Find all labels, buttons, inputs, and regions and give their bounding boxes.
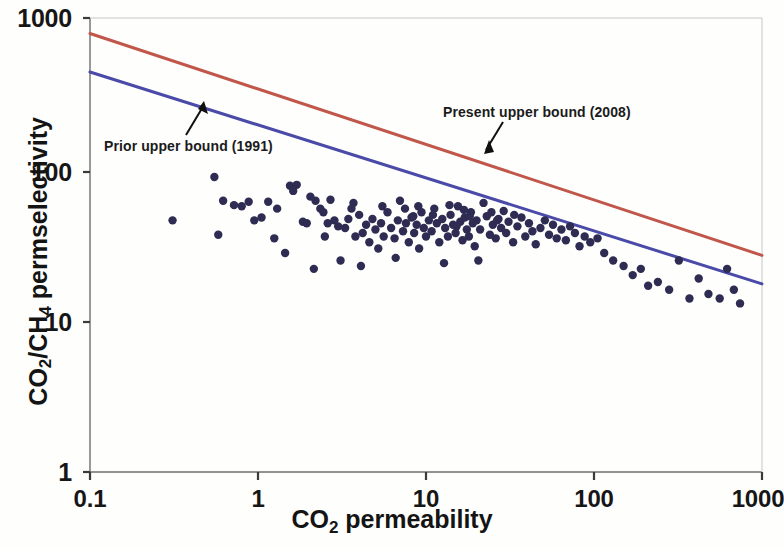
data-point [487, 208, 495, 216]
data-point [270, 234, 278, 242]
data-point [474, 256, 482, 264]
y-axis-title-co-sub: 2 [36, 359, 55, 368]
data-point [438, 215, 446, 223]
data-point [435, 238, 443, 246]
data-point [281, 249, 289, 257]
data-point [210, 173, 218, 181]
data-point [214, 230, 222, 238]
data-point [593, 234, 601, 242]
data-point [736, 299, 744, 307]
data-point [541, 216, 549, 224]
data-point [730, 286, 738, 294]
data-point [723, 265, 731, 273]
data-point [293, 181, 301, 189]
data-point [521, 232, 529, 240]
x-axis-title-co: CO [291, 505, 329, 533]
data-point [351, 232, 359, 240]
data-point [492, 234, 500, 242]
data-point [444, 232, 452, 240]
data-point [244, 198, 252, 206]
data-point [355, 211, 363, 219]
data-point [695, 274, 703, 282]
data-point [362, 221, 370, 229]
annotation-prior-upper-bound: Prior upper bound (1991) [104, 138, 273, 154]
data-point [536, 224, 544, 232]
data-point [476, 225, 484, 233]
data-series-layer [90, 33, 762, 307]
data-point [429, 211, 437, 219]
data-point [525, 219, 533, 227]
data-point [250, 216, 258, 224]
data-point [390, 234, 398, 242]
data-point [629, 271, 637, 279]
data-point [517, 213, 525, 221]
data-point [528, 227, 536, 235]
data-point [311, 197, 319, 205]
data-point [644, 282, 652, 290]
data-point [441, 224, 449, 232]
data-point [586, 238, 594, 246]
data-point [504, 218, 512, 226]
data-point [493, 216, 501, 224]
data-point [394, 216, 402, 224]
data-point [609, 256, 617, 264]
data-point [326, 196, 334, 204]
y-axis-title-ch-sub: 4 [36, 306, 55, 315]
data-point [427, 227, 435, 235]
data-point [571, 229, 579, 237]
data-point [368, 215, 376, 223]
data-point [374, 244, 382, 252]
data-point [273, 204, 281, 212]
data-point [396, 197, 404, 205]
data-point [499, 207, 507, 215]
axis-lines [90, 18, 762, 472]
data-point [685, 294, 693, 302]
data-point [575, 242, 583, 250]
data-point [549, 221, 557, 229]
data-point [336, 256, 344, 264]
x-axis-title-co-sub: 2 [329, 518, 338, 537]
y-tick-1000: 1000 [0, 4, 72, 33]
data-point [619, 262, 627, 270]
data-point [479, 199, 487, 207]
x-axis-title-tail: permeability [338, 505, 492, 533]
plot-canvas [0, 0, 784, 547]
data-point [600, 249, 608, 257]
data-point [409, 212, 417, 220]
annotation-present-upper-bound: Present upper bound (2008) [443, 104, 631, 120]
data-point [334, 222, 342, 230]
data-point [387, 224, 395, 232]
data-point [168, 216, 176, 224]
data-point [257, 213, 265, 221]
data-point [414, 202, 422, 210]
data-point [665, 286, 673, 294]
data-point [557, 225, 565, 233]
data-point [532, 240, 540, 248]
data-point [303, 219, 311, 227]
data-point [357, 262, 365, 270]
data-point [321, 232, 329, 240]
data-point [465, 232, 473, 240]
data-point [510, 211, 518, 219]
data-point [446, 211, 454, 219]
data-point [310, 265, 318, 273]
x-axis-title: CO2 permeability [0, 505, 784, 538]
data-point [238, 202, 246, 210]
data-point [420, 224, 428, 232]
data-point [371, 225, 379, 233]
data-point [341, 224, 349, 232]
data-point [399, 227, 407, 235]
data-point [344, 215, 352, 223]
data-point [465, 212, 473, 220]
data-point [675, 256, 683, 264]
data-point [365, 238, 373, 246]
data-point [410, 229, 418, 237]
data-point [401, 204, 409, 212]
data-point [509, 238, 517, 246]
data-point [471, 242, 479, 250]
data-point [440, 259, 448, 267]
data-point [380, 232, 388, 240]
chart-figure: 1000 100 10 1 0.1 1 10 100 1000 CO2/CH4 … [0, 0, 784, 547]
data-point [359, 229, 367, 237]
data-point [545, 230, 553, 238]
